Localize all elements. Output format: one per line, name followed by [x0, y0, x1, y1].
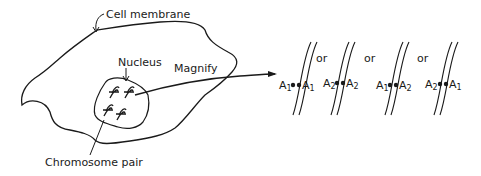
cell-membrane-outline	[22, 21, 237, 143]
allele-label: A2	[323, 78, 336, 91]
allele-label: A1	[279, 80, 292, 93]
cell-membrane-label: Cell membrane	[106, 9, 190, 20]
allele-label: A1	[302, 80, 315, 93]
allele-label: A2	[399, 80, 412, 93]
or-connector: or	[316, 53, 327, 64]
allele-label: A1	[449, 79, 462, 92]
or-connector: or	[364, 53, 375, 64]
allele-label: A1	[376, 80, 389, 93]
nucleus-outline	[94, 78, 148, 129]
diagram-canvas: Cell membrane Nucleus Magnify Chromosome…	[0, 0, 481, 176]
allele-label: A2	[425, 79, 438, 92]
nucleus-label: Nucleus	[118, 57, 162, 68]
cell-membrane-pointer	[96, 14, 104, 30]
magnify-label: Magnify	[174, 63, 217, 74]
magnify-arrow	[135, 74, 275, 95]
chromosome-icons	[103, 87, 134, 120]
or-connector: or	[417, 53, 428, 64]
allele-label: A2	[346, 78, 359, 91]
chromosome-pair-label: Chromosome pair	[45, 157, 143, 168]
